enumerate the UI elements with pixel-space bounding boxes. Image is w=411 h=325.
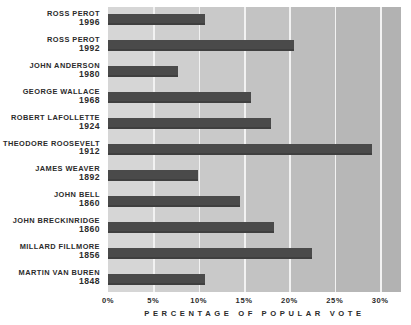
election-year: 1912 <box>3 147 100 156</box>
bar <box>108 248 312 259</box>
value-axis-tick-label: 20% <box>281 296 298 305</box>
background-band <box>380 7 401 292</box>
bar <box>108 274 205 285</box>
axis-title: PERCENTAGE OF POPULAR VOTE <box>108 309 401 318</box>
bar <box>108 170 198 181</box>
election-year: 1968 <box>23 96 100 105</box>
election-year: 1992 <box>47 44 100 53</box>
category-label: JOHN ANDERSON1980 <box>30 62 100 79</box>
value-axis-tick-label: 25% <box>326 296 343 305</box>
bar <box>108 92 251 103</box>
election-year: 1848 <box>19 277 100 286</box>
value-axis-tick-label: 5% <box>147 296 159 305</box>
plot-area <box>108 7 401 292</box>
category-label: JOHN BELL1860 <box>54 191 100 208</box>
election-year: 1996 <box>47 18 100 27</box>
bar <box>108 222 274 233</box>
gridline <box>380 7 382 292</box>
bar <box>108 40 294 51</box>
value-axis-tick-label: 15% <box>236 296 253 305</box>
category-label: MARTIN VAN BUREN1848 <box>19 269 100 286</box>
bar <box>108 196 240 207</box>
bar <box>108 118 271 129</box>
value-axis-tick-label: 0% <box>102 296 114 305</box>
bar <box>108 66 178 77</box>
value-axis-tick-label: 10% <box>190 296 207 305</box>
election-year: 1860 <box>54 199 100 208</box>
election-year: 1860 <box>13 225 100 234</box>
category-label: ROSS PEROT1996 <box>47 10 100 27</box>
value-axis-tick-label: 30% <box>372 296 389 305</box>
bar <box>108 14 205 25</box>
bar <box>108 144 372 155</box>
election-year: 1856 <box>20 251 100 260</box>
category-label: JOHN BRECKINRIDGE1860 <box>13 217 100 234</box>
category-label: MILLARD FILLMORE1856 <box>20 243 100 260</box>
election-year: 1980 <box>30 70 100 79</box>
category-label: JAMES WEAVER1892 <box>35 165 100 182</box>
value-axis-ticks: 0%5%10%15%20%25%30% <box>0 296 411 308</box>
election-year: 1924 <box>11 122 100 131</box>
category-label: ROBERT LaFOLLETTE1924 <box>11 114 100 131</box>
category-label: THEODORE ROOSEVELT1912 <box>3 140 100 157</box>
chart-container: ROSS PEROT1996ROSS PEROT1992JOHN ANDERSO… <box>0 0 411 325</box>
category-label: ROSS PEROT1992 <box>47 36 100 53</box>
election-year: 1892 <box>35 173 100 182</box>
category-axis-labels: ROSS PEROT1996ROSS PEROT1992JOHN ANDERSO… <box>0 7 104 292</box>
category-label: GEORGE WALLACE1968 <box>23 88 100 105</box>
